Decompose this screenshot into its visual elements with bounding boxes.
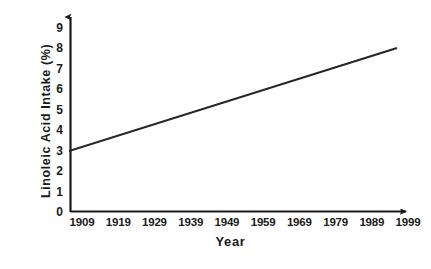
y-tick-label: 4 (47, 123, 63, 137)
y-tick-label: 0 (47, 205, 63, 219)
x-tick-label: 1979 (323, 216, 348, 228)
y-tick-label: 3 (47, 144, 63, 158)
plot-area (0, 0, 431, 269)
x-tick-label: 1969 (287, 216, 312, 228)
x-tick-label: 1909 (70, 216, 95, 228)
y-tick-label: 7 (47, 62, 63, 76)
x-tick-label: 1949 (214, 216, 239, 228)
y-tick-label: 1 (47, 185, 63, 199)
y-tick-label: 2 (47, 164, 63, 178)
y-tick-label: 5 (47, 103, 63, 117)
x-tick-label: 1919 (106, 216, 131, 228)
x-tick-label: 1989 (359, 216, 384, 228)
y-tick-label: 8 (47, 41, 63, 55)
x-tick-label: 1999 (396, 216, 421, 228)
x-tick-label: 1929 (142, 216, 167, 228)
y-tick-label: 9 (47, 21, 63, 35)
x-tick-label: 1959 (251, 216, 276, 228)
data-line-linoleic-acid-intake (70, 48, 396, 150)
line-chart: Linoleic Acid Intake (%) Year 9876543210… (0, 0, 431, 269)
y-tick-label: 6 (47, 82, 63, 96)
x-axis-title: Year (0, 234, 431, 249)
x-tick-label: 1939 (178, 216, 203, 228)
